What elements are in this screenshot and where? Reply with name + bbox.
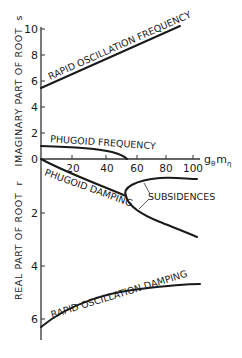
svg-text:gθmη: gθmη: [204, 153, 231, 168]
xtick-80: 80: [159, 162, 172, 174]
ytick-0: 0: [31, 153, 38, 166]
rapid-oscillation-frequency-curve: [41, 26, 180, 88]
ytick-real-6: 6: [31, 313, 38, 326]
y-axis-label: REAL PART OF ROOT r IMAGINARY PART OF RO…: [13, 15, 24, 300]
xtick-60: 60: [130, 162, 143, 174]
x-ticks: 20 40 60 80 100: [66, 155, 203, 174]
rapid-oscillation-frequency-label: RAPID OSCILLATION FREQUENCY: [46, 9, 192, 82]
ytick-6: 6: [31, 75, 38, 88]
ytick-8: 8: [31, 49, 38, 62]
ytick-real-2: 2: [31, 207, 38, 220]
phugoid-frequency-label: PHUGOID FREQUENCY: [50, 133, 156, 151]
ytick-4: 4: [31, 101, 38, 114]
subsidence-lower-branch: [126, 196, 197, 237]
root-locus-chart: 10 8 6 4 2 0 2 4 6 20 40 60 80 100 gθmη …: [0, 0, 242, 358]
xtick-100: 100: [183, 162, 203, 174]
x-axis-label: gθmη: [204, 153, 231, 168]
ytick-real-4: 4: [31, 260, 38, 273]
subsidences-label: SUBSIDENCES: [148, 191, 215, 202]
ytick-2: 2: [31, 127, 38, 140]
phugoid-damping-label: PHUGOID DAMPING: [43, 167, 134, 209]
ytick-10: 10: [24, 23, 38, 36]
xtick-40: 40: [100, 162, 113, 174]
y-ticks-upper: 10 8 6 4 2 0: [24, 23, 45, 166]
rapid-oscillation-damping-label-a: RAPID OSCILLATION DAMPING: [49, 268, 188, 320]
y-ticks-lower: 2 4 6: [31, 207, 45, 326]
